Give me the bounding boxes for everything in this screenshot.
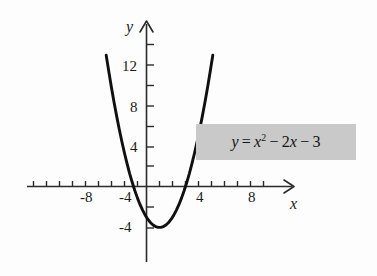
equation-constant-3: 3 [312,133,320,150]
equation-coefficient-2: 2 [282,133,290,150]
equation-minus-first: − [266,133,281,150]
x-axis-ticks [34,181,264,187]
y-tick-label-8: 8 [130,100,138,115]
equation-minus-second: − [297,133,312,150]
equation-annotation-box: y=x2−2x−3 [196,124,356,160]
y-tick-label-neg4: -4 [119,220,132,235]
equation-equals: = [239,133,254,150]
y-tick-label-12: 12 [122,59,137,74]
parabola-figure: -8 -4 4 8 12 8 4 -4 x y y=x2−2x−3 [0,0,377,276]
equation-y: y [231,133,238,150]
equation-text: y=x2−2x−3 [231,133,320,151]
x-tick-label-4: 4 [196,190,204,205]
y-axis-label: y [126,19,133,35]
x-axis-label: x [290,196,297,212]
y-axis-ticks [147,45,155,229]
x-tick-label-neg8: -8 [80,190,93,205]
x-tick-label-neg4: -4 [119,190,132,205]
x-tick-label-8: 8 [248,190,256,205]
y-tick-label-4: 4 [130,140,138,155]
